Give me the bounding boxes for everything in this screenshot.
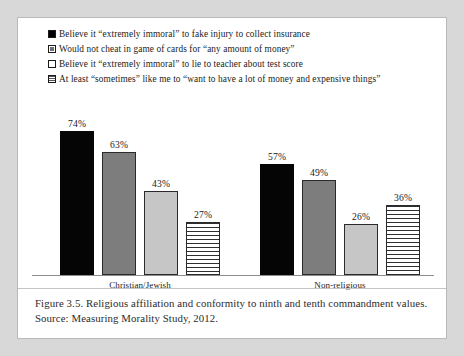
bar-rect: [344, 224, 378, 275]
bar-value-label: 36%: [386, 192, 420, 203]
bar-item: 43%: [144, 94, 178, 275]
legend-item-label: Believe it “extremely immoral” to fake i…: [59, 27, 310, 42]
bar-rect: [260, 164, 294, 275]
bar-value-label: 57%: [260, 151, 294, 162]
chart-plot-area: 74% 63% 43% 27% Christian/Jewish: [32, 94, 434, 276]
bar-item: 36%: [386, 94, 420, 275]
bar-value-label: 27%: [186, 209, 220, 220]
x-axis-line: [32, 275, 434, 276]
legend-item: Believe it “extremely immoral” to lie to…: [48, 57, 438, 72]
bar-rect: [386, 205, 420, 275]
legend-marker-solid-black-square-icon: [48, 30, 56, 38]
legend-item-label: At least “sometimes” like me to “want to…: [59, 72, 380, 87]
bar-item: 74%: [60, 94, 94, 275]
legend-item-label: Believe it “extremely immoral” to lie to…: [59, 57, 303, 72]
bar-value-label: 49%: [302, 167, 336, 178]
bar-group: 57% 49% 26% 36% Non-religious: [260, 94, 420, 275]
bar-item: 27%: [186, 94, 220, 275]
bar-value-label: 63%: [102, 139, 136, 150]
legend-marker-light-gray-square-icon: [48, 60, 56, 68]
bar-rect: [186, 222, 220, 275]
chart-legend: Believe it “extremely immoral” to fake i…: [48, 27, 438, 87]
legend-marker-horizontal-striped-square-icon: [48, 75, 56, 83]
bar-group: 74% 63% 43% 27% Christian/Jewish: [60, 94, 220, 275]
bar-rect: [302, 180, 336, 275]
legend-item: Would not cheat in game of cards for “an…: [48, 42, 438, 57]
figure-container: Believe it “extremely immoral” to fake i…: [17, 17, 447, 339]
bar-item: 57%: [260, 94, 294, 275]
legend-item: Believe it “extremely immoral” to fake i…: [48, 27, 438, 42]
bar-value-label: 43%: [144, 178, 178, 189]
bar-item: 49%: [302, 94, 336, 275]
bar-item: 63%: [102, 94, 136, 275]
legend-item: At least “sometimes” like me to “want to…: [48, 72, 438, 87]
bar-rect: [60, 131, 94, 275]
legend-item-label: Would not cheat in game of cards for “an…: [59, 42, 295, 57]
caption-divider: [18, 288, 446, 289]
bar-rect: [144, 191, 178, 275]
bar-item: 26%: [344, 94, 378, 275]
bar-value-label: 26%: [344, 211, 378, 222]
legend-marker-gray-square-icon: [48, 45, 56, 53]
figure-caption: Figure 3.5. Religious affiliation and co…: [35, 296, 435, 326]
bar-value-label: 74%: [60, 118, 94, 129]
bar-rect: [102, 152, 136, 275]
